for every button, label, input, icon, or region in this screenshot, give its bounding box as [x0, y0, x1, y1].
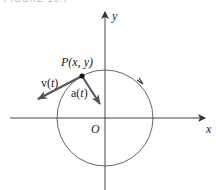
velocity-label: v(t) [41, 76, 58, 91]
x-axis-label: x [206, 122, 211, 137]
point-p [79, 73, 84, 78]
origin-label: O [91, 122, 100, 137]
diagram-canvas [0, 0, 216, 190]
y-axis-label: y [112, 9, 117, 24]
acceleration-label: a(t) [71, 86, 88, 101]
point-label: P(x, y) [61, 55, 93, 70]
